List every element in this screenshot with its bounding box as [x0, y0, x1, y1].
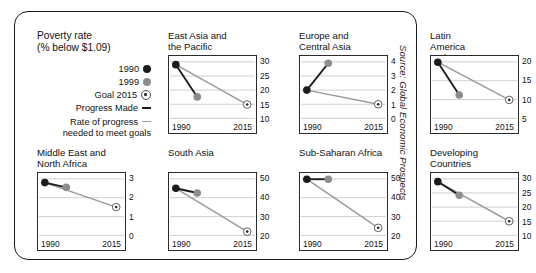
y-axis-labels: 1015202530 — [260, 55, 282, 134]
gray-line-icon — [142, 121, 151, 123]
legend-item-1999: 1999 — [119, 77, 151, 87]
chart-panel: South Asia1990201520304050 — [168, 147, 214, 171]
legend-label-1999: 1999 — [119, 77, 139, 87]
dark-line-icon — [142, 107, 151, 109]
panel-title: East Asia and the Pacific — [168, 30, 227, 54]
panel-title: Developing Countries — [430, 147, 478, 171]
legend-label-goal: Goal 2015 — [95, 90, 137, 100]
plot-area: 19902015 — [430, 172, 519, 251]
legend-item-goal: Goal 2015 — [95, 90, 151, 100]
panel-title: Latin America and the Caribbean — [430, 30, 474, 54]
x-tick-label-start: 1990 — [172, 239, 191, 249]
filled-gray-circle-icon — [143, 78, 151, 86]
panel-title: Middle East and North Africa — [37, 147, 106, 171]
y-axis-labels: 1015202530 — [522, 172, 536, 251]
y-tick-label: 10 — [522, 231, 531, 241]
source-note: Source: Global Economic Prospects — [391, 45, 409, 245]
x-tick-label-start: 1990 — [434, 239, 453, 249]
x-tick-label-end: 2015 — [102, 239, 121, 249]
legend-label-rate: Rate of progress — [70, 117, 138, 127]
y-axis-labels: 0123 — [129, 172, 151, 251]
x-tick-label-end: 2015 — [364, 122, 383, 132]
x-tick-label-end: 2015 — [233, 239, 252, 249]
y-tick-label: 50 — [260, 173, 269, 183]
y-tick-label: 2 — [129, 192, 134, 202]
y-tick-label: 3 — [129, 173, 134, 183]
legend-item-rate: Rate of progress — [70, 117, 151, 127]
x-tick-label-end: 2015 — [495, 122, 514, 132]
legend-item-1990: 1990 — [119, 64, 151, 74]
x-tick-label-end: 2015 — [233, 122, 252, 132]
y-tick-label: 20 — [260, 231, 269, 241]
y-tick-label: 20 — [260, 85, 269, 95]
y-tick-label: 10 — [260, 114, 269, 124]
y-tick-label: 15 — [522, 217, 531, 227]
plot-area: 19902015 — [168, 55, 257, 134]
panel-title: Europe and Central Asia — [299, 30, 351, 54]
x-tick-label-start: 1990 — [303, 239, 322, 249]
plot-area: 19902015 — [430, 55, 519, 134]
plot-area: 19902015 — [168, 172, 257, 251]
legend-items: 1990 1999 Goal 2015 Progress Made Rate o… — [37, 64, 153, 127]
y-tick-label: 20 — [522, 56, 531, 66]
chart-panel: Europe and Central Asia1990201501234 — [299, 30, 351, 54]
plot-area: 19902015 — [299, 55, 388, 134]
filled-black-circle-icon — [143, 65, 151, 73]
figure-container: Poverty rate (% below $1.09) 1990 1999 G… — [14, 11, 417, 260]
y-tick-label: 25 — [522, 188, 531, 198]
panel-title: South Asia — [168, 147, 214, 171]
legend-label-progress: Progress Made — [76, 103, 138, 113]
x-tick-label-end: 2015 — [495, 239, 514, 249]
chart-panel: Middle East and North Africa199020150123 — [37, 147, 106, 171]
x-tick-label-start: 1990 — [41, 239, 60, 249]
y-tick-label: 15 — [522, 75, 531, 85]
chart-panel: Sub-Saharan Africa1990201520304050 — [299, 147, 382, 171]
x-tick-label-end: 2015 — [364, 239, 383, 249]
target-circle-icon — [141, 90, 151, 100]
y-tick-label: 40 — [260, 192, 269, 202]
y-tick-label: 30 — [260, 212, 269, 222]
plot-area: 19902015 — [37, 172, 126, 251]
legend-sub-label: needed to meet goals — [37, 128, 153, 138]
chart-panel: Developing Countries199020151015202530 — [430, 147, 478, 171]
legend-label-1990: 1990 — [119, 64, 139, 74]
x-tick-label-start: 1990 — [434, 122, 453, 132]
chart-panel: Latin America and the Caribbean199020155… — [430, 30, 474, 54]
chart-panel: East Asia and the Pacific199020151015202… — [168, 30, 227, 54]
legend-block: Poverty rate (% below $1.09) 1990 1999 G… — [37, 30, 153, 138]
y-tick-label: 10 — [522, 95, 531, 105]
y-tick-label: 1 — [129, 212, 134, 222]
y-tick-label: 25 — [260, 71, 269, 81]
plot-area: 19902015 — [299, 172, 388, 251]
y-tick-label: 5 — [522, 114, 527, 124]
y-tick-label: 20 — [522, 202, 531, 212]
x-tick-label-start: 1990 — [303, 122, 322, 132]
panel-grid: Poverty rate (% below $1.09) 1990 1999 G… — [37, 30, 415, 254]
legend-title: Poverty rate (% below $1.09) — [37, 30, 153, 55]
panel-title: Sub-Saharan Africa — [299, 147, 382, 171]
y-tick-label: 30 — [522, 173, 531, 183]
y-tick-label: 30 — [260, 56, 269, 66]
y-tick-label: 0 — [129, 231, 134, 241]
y-axis-labels: 5101520 — [522, 55, 536, 134]
y-tick-label: 15 — [260, 100, 269, 110]
y-axis-labels: 20304050 — [260, 172, 282, 251]
x-tick-label-start: 1990 — [172, 122, 191, 132]
legend-item-progress: Progress Made — [76, 103, 151, 113]
